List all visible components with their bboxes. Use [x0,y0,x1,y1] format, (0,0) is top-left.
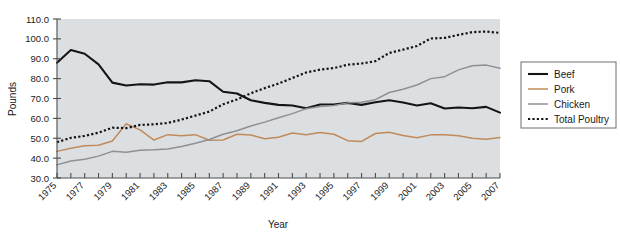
y-axis-tick-label: 80.0 [31,73,50,84]
x-axis-tick-label: 1991 [257,180,280,203]
x-axis-tick-label: 1981 [119,180,142,203]
x-axis-tick-label: 1979 [91,180,114,203]
x-axis-tick-label: 1977 [63,180,86,203]
x-axis-tick-label: 1995 [313,180,336,203]
x-axis-title: Year [268,219,289,230]
chart-legend: BeefPorkChickenTotal Poultry [521,62,616,128]
y-axis-tick-label: 40.0 [31,153,50,164]
chart-container: 30.040.050.060.070.080.090.0100.0110.0 1… [0,0,620,240]
y-axis-title: Pounds [7,82,18,116]
y-axis-tick-label: 100.0 [25,33,49,44]
y-axis-tick-label: 90.0 [31,53,50,64]
x-axis-tick-label: 1997 [340,180,363,203]
x-axis-tick-label: 1999 [368,180,391,203]
legend-label-chicken: Chicken [554,99,590,110]
y-axis-tick-label: 50.0 [31,133,50,144]
line-chart: 30.040.050.060.070.080.090.0100.0110.0 1… [0,0,620,240]
x-axis-tick-label: 1993 [285,180,308,203]
plot-background [57,19,500,178]
x-axis-tick-label: 1985 [174,180,197,203]
x-axis-tick-labels: 1975197719791981198319851987198919911993… [36,180,502,203]
y-axis-tick-labels: 30.040.050.060.070.080.090.0100.0110.0 [25,14,49,184]
x-axis-tick-label: 1989 [229,180,252,203]
y-axis-tick-label: 30.0 [31,173,50,184]
x-axis-tick-label: 1983 [146,180,169,203]
x-axis-tick-label: 2003 [423,180,446,203]
x-axis-tick-label: 2005 [451,180,474,203]
legend-label-beef: Beef [554,69,575,80]
y-axis-tick-label: 70.0 [31,93,50,104]
x-axis-tick-label: 1987 [202,180,225,203]
x-axis-tick-label: 2007 [479,180,502,203]
x-axis-tick-label: 2001 [396,180,419,203]
y-axis-tick-label: 60.0 [31,113,50,124]
legend-label-pork: Pork [554,84,576,95]
y-axis-tick-label: 110.0 [26,14,49,25]
legend-label-total-poultry: Total Poultry [554,114,609,125]
